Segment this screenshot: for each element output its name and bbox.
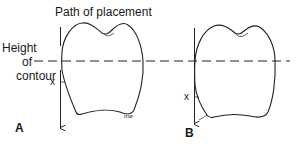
artist-signature: mø xyxy=(124,113,133,119)
tooth-contour-diagram: x mø Path of placement Height of contour… xyxy=(0,0,297,151)
x-marker-b: x xyxy=(184,91,189,102)
root-flare-b xyxy=(199,115,207,120)
tooth-outline-b xyxy=(195,25,276,118)
tooth-outline-a xyxy=(62,23,144,115)
path-of-placement-label: Path of placement xyxy=(55,5,152,19)
panel-label-b: B xyxy=(185,126,194,140)
diagram-canvas: x mø Path of placement Height of contour… xyxy=(0,0,297,151)
panel-a: x mø Path of placement Height of contour… xyxy=(2,5,152,135)
height-of-contour-label-line3: contour xyxy=(16,69,56,83)
panel-b: x B xyxy=(184,25,275,140)
height-of-contour-label-line1: Height xyxy=(2,41,37,55)
panel-label-a: A xyxy=(15,121,24,135)
height-of-contour-label-line2: of xyxy=(22,55,33,69)
